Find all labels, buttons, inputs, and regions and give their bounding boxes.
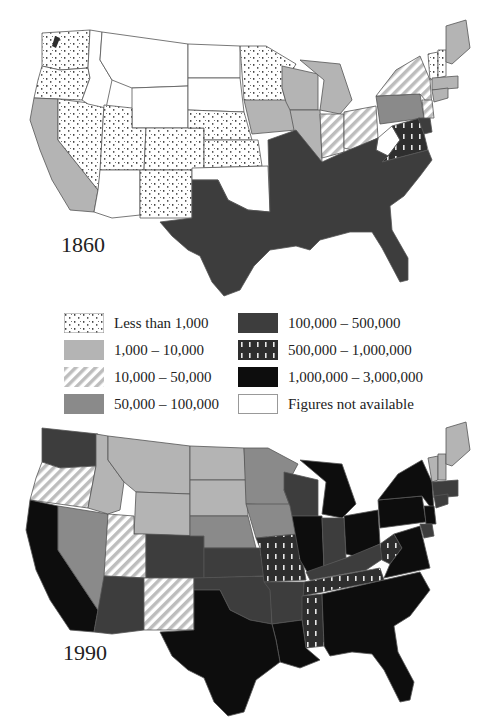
state-sd-1990 — [190, 480, 248, 516]
state-ms-1990 — [302, 594, 324, 648]
legend-item-100000-500000: 100,000 – 500,000 — [238, 313, 401, 333]
state-ks-1860 — [204, 140, 262, 168]
legend-item-50000-100000: 50,000 – 100,000 — [64, 394, 219, 414]
state-ks-1990 — [204, 548, 264, 578]
state-nm-1990 — [144, 578, 194, 630]
swatch-light-gray — [64, 340, 104, 360]
state-sd-1860 — [188, 78, 244, 112]
swatch-dark-gray — [238, 313, 278, 333]
state-southeast-1990 — [322, 572, 430, 702]
state-ct-1990 — [434, 494, 448, 508]
state-nj-1860 — [422, 100, 434, 118]
year-label-1860: 1860 — [61, 232, 105, 258]
state-nd-1860 — [188, 44, 240, 78]
state-ct-1860 — [432, 88, 448, 102]
state-wa-1860 — [42, 30, 90, 70]
state-wy-1860 — [132, 86, 188, 128]
state-vt-1860 — [428, 52, 438, 80]
state-nh-1860 — [438, 50, 446, 78]
state-co-1860 — [144, 128, 204, 170]
state-ma-1860 — [432, 76, 458, 90]
state-mt-1860 — [100, 32, 188, 88]
state-nm-1860 — [140, 170, 192, 218]
legend-item-1000-10000: 1,000 – 10,000 — [64, 340, 204, 360]
swatch-hatched — [64, 367, 104, 387]
legend-item-less-1000: Less than 1,000 — [64, 313, 209, 333]
legend-item-1000000-3000000: 1,000,000 – 3,000,000 — [238, 367, 423, 387]
state-nj-1990 — [424, 506, 436, 524]
state-wi-1860 — [282, 66, 318, 110]
state-co-1990 — [146, 534, 204, 578]
state-or-1860 — [34, 66, 90, 100]
map-1990 — [0, 420, 492, 726]
state-wy-1990 — [134, 492, 190, 536]
state-in-1990 — [322, 518, 346, 566]
legend: Less than 1,000 1,000 – 10,000 10,000 – … — [64, 313, 424, 417]
state-me-1860 — [446, 20, 470, 64]
legend-item-not-available: Figures not available — [238, 394, 414, 414]
legend-item-500000-1000000: 500,000 – 1,000,000 — [238, 340, 412, 360]
state-me-1990 — [446, 422, 470, 466]
swatch-mid-gray — [64, 394, 104, 414]
state-wa-1990 — [42, 428, 98, 468]
legend-item-10000-50000: 10,000 – 50,000 — [64, 367, 212, 387]
state-or-1990 — [30, 462, 96, 508]
swatch-dotted — [64, 313, 104, 333]
year-label-1990: 1990 — [63, 640, 107, 666]
swatch-white — [238, 394, 278, 414]
state-pa-1990 — [378, 496, 426, 528]
state-ia-1990 — [246, 504, 298, 538]
state-az-1860 — [94, 170, 140, 218]
map-1860 — [0, 0, 492, 305]
state-nh-1990 — [438, 454, 446, 480]
state-in-1860 — [320, 114, 344, 158]
swatch-black — [238, 367, 278, 387]
swatch-dashed-dark — [238, 340, 278, 360]
state-nd-1990 — [190, 446, 246, 480]
